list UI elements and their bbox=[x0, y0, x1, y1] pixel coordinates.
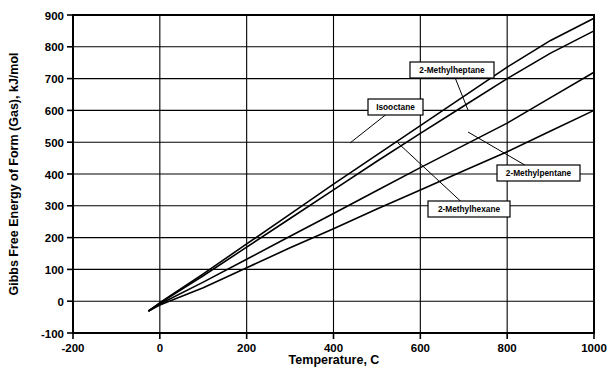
y-tick-label: 300 bbox=[45, 200, 64, 212]
callout-label: Isooctane bbox=[376, 102, 415, 112]
y-tick-label: -100 bbox=[41, 328, 64, 340]
gibbs-free-energy-chart: -20002004006008001000 -10001002003004005… bbox=[0, 0, 614, 379]
x-tick-label: 800 bbox=[498, 342, 517, 354]
callout-label: 2-Methylpentane bbox=[506, 168, 572, 178]
y-tick-label: 100 bbox=[45, 264, 64, 276]
x-tick-label: 0 bbox=[157, 342, 163, 354]
x-tick-label: 600 bbox=[411, 342, 430, 354]
y-tick-label: 700 bbox=[45, 73, 64, 85]
callout-isooctane: Isooctane bbox=[368, 99, 423, 115]
callout-label: 2-Methylhexane bbox=[438, 204, 501, 214]
callout-2-methylheptane: 2-Methylheptane bbox=[410, 62, 494, 78]
chart-canvas: -20002004006008001000 -10001002003004005… bbox=[0, 0, 614, 379]
y-tick-label: 400 bbox=[45, 169, 64, 181]
chart-background bbox=[0, 0, 614, 379]
x-tick-label: 1000 bbox=[581, 342, 607, 354]
callout-2-methylpentane: 2-Methylpentane bbox=[497, 165, 580, 181]
y-tick-label: 600 bbox=[45, 105, 64, 117]
callout-2-methylhexane: 2-Methylhexane bbox=[428, 201, 510, 217]
callout-label: 2-Methylheptane bbox=[419, 65, 485, 75]
y-tick-label: 200 bbox=[45, 232, 64, 244]
y-tick-label: 800 bbox=[45, 41, 64, 53]
y-tick-label: 500 bbox=[45, 137, 64, 149]
x-tick-label: 200 bbox=[237, 342, 256, 354]
x-axis-title: Temperature, C bbox=[289, 353, 380, 367]
x-tick-label: -200 bbox=[61, 342, 84, 354]
y-axis-title: Gibbs Free Energy of Form (Gas), kJ/mol bbox=[7, 52, 21, 295]
y-tick-label: 900 bbox=[45, 10, 64, 22]
y-tick-label: 0 bbox=[58, 296, 64, 308]
